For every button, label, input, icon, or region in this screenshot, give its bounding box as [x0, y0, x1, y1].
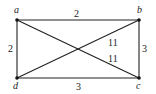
- weight-a-b: 2: [74, 8, 79, 19]
- edge-weights: 2 2 3 3 11 11: [8, 8, 147, 92]
- graph-diagram: a b c d 2 2 3 3 11 11: [0, 0, 156, 94]
- weight-a-c: 11: [108, 53, 118, 64]
- vertex-a: [15, 18, 19, 22]
- vertex-b: [137, 18, 141, 22]
- weight-d-b: 11: [108, 37, 118, 48]
- vertex-label-b: b: [137, 4, 142, 15]
- weight-a-d: 2: [8, 43, 13, 54]
- vertex-label-d: d: [13, 80, 19, 91]
- weight-b-c: 3: [142, 43, 147, 54]
- vertex-label-c: c: [136, 80, 141, 91]
- weight-d-c: 3: [76, 81, 81, 92]
- edges: [17, 20, 139, 78]
- vertex-label-a: a: [14, 4, 19, 15]
